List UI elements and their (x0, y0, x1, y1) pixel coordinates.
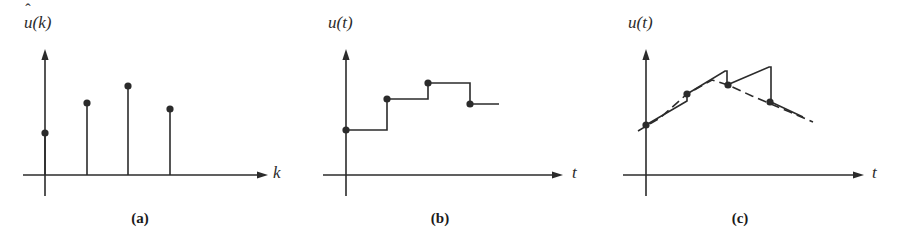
panel-b-x-axis-label: t (572, 164, 577, 181)
panel-a-sample-dot-2 (124, 82, 131, 89)
panel-a-y-axis-arrowhead-icon (41, 49, 48, 60)
figure-container: ˆu(k) k (a) u(t) t (b) u(t) t (c) (0, 0, 900, 238)
panel-b-x-axis-arrowhead-icon (552, 171, 563, 178)
panel-c-sawtooth-curve (646, 67, 803, 125)
panel-a-sample-dot-3 (166, 105, 173, 112)
panel-c-y-axis-label: u(t) (628, 14, 653, 31)
panel-c-sample-dot-1 (683, 90, 690, 97)
draw-layer (23, 49, 864, 196)
panel-c-sample-dot-3 (766, 98, 773, 105)
panel-b-y-axis-arg: (t) (337, 13, 353, 32)
panel-a-x-axis-label: k (273, 164, 281, 181)
panel-b-sample-dot-2 (424, 79, 431, 86)
panel-a-y-axis-arg: (k) (33, 13, 52, 32)
panel-a-sample-dot-0 (41, 129, 48, 136)
panel-a-y-axis-label: ˆu(k) (24, 14, 51, 31)
panel-b-sample-dot-0 (342, 126, 349, 133)
panel-a-x-axis-arrowhead-icon (257, 171, 268, 178)
panel-b-step-curve (346, 83, 499, 130)
panel-b-y-axis-arrowhead-icon (342, 49, 349, 60)
panel-c-y-axis-arg: (t) (637, 13, 653, 32)
panel-c-x-axis-label: t (872, 164, 877, 181)
panel-c-sample-dot-0 (642, 121, 649, 128)
panel-b-y-axis-label: u(t) (328, 14, 353, 31)
panel-c-x-axis-arrowhead-icon (853, 171, 864, 178)
panel-b-sample-dot-1 (383, 95, 390, 102)
hat-accent-icon: ˆ (25, 2, 30, 18)
panel-c-dashed-signal-curve (638, 80, 813, 131)
panel-c-u-symbol: u (628, 13, 637, 32)
panel-c-caption: (c) (715, 211, 765, 226)
panel-b-u-symbol: u (328, 13, 337, 32)
panel-b-sample-dot-3 (466, 100, 473, 107)
figure-drawing (0, 0, 900, 238)
panel-b-caption: (b) (415, 211, 465, 226)
panel-a-caption: (a) (115, 211, 165, 226)
panel-c-sample-dot-2 (724, 81, 731, 88)
panel-c-y-axis-arrowhead-icon (642, 49, 649, 60)
u-hat-symbol: ˆu (24, 14, 33, 31)
panel-a-sample-dot-1 (83, 99, 90, 106)
